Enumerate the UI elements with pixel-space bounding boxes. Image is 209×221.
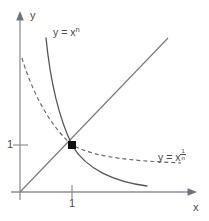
y-axis-tick-label-1: 1 (7, 139, 13, 150)
curve-label-power-n-exponent: n (75, 25, 79, 34)
curve-identity-line (20, 38, 168, 192)
exponent-fraction: 1n (180, 148, 185, 161)
x-axis-arrowhead (188, 188, 198, 196)
exponent-denominator: n (180, 154, 185, 161)
curve-label-power-n: y = xn (53, 27, 80, 38)
y-axis-arrowhead (16, 11, 24, 21)
curve-label-power-n-base: y = x (53, 26, 75, 38)
x-axis-label: x (193, 202, 199, 213)
y-axis-label: y (30, 10, 36, 21)
x-axis-tick-label-1: 1 (69, 198, 75, 209)
curve-label-power-one-over-n-base: y = x (158, 151, 180, 163)
math-figure-xn-and-xinvn: y x 1 1 y = xn y = x1n (0, 0, 209, 221)
curve-y-equals-x-to-one-over-n (22, 58, 181, 163)
y-axis (16, 11, 24, 200)
intersection-point-marker (68, 141, 76, 149)
curve-label-power-one-over-n: y = x1n (158, 151, 186, 164)
plot-canvas (0, 0, 209, 221)
x-axis (11, 188, 197, 196)
